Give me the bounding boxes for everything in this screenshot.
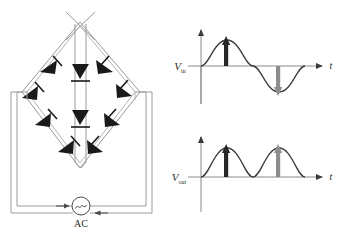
diode-right-upper	[116, 80, 132, 98]
vout-plot: Vout t	[172, 137, 333, 212]
diode-center-top	[71, 64, 90, 81]
ac-source-symbol	[72, 197, 90, 215]
diode-left-lower	[35, 109, 57, 127]
vin-axis-label: Vin	[174, 60, 185, 74]
figure-root: AC Vin t	[0, 0, 342, 230]
figure-canvas: AC Vin t	[0, 0, 342, 230]
vout-axis-label: Vout	[172, 171, 187, 185]
vin-plot: Vin t	[174, 30, 332, 104]
diode-center-bottom	[71, 110, 90, 127]
center-vertical-rails	[75, 24, 86, 168]
diode-top-left-upper	[40, 56, 62, 74]
bridge-rectifier-circuit: AC	[11, 12, 152, 229]
vout-time-label: t	[330, 171, 333, 182]
diode-top-right-upper	[96, 56, 113, 74]
diode-right-lower	[104, 109, 120, 127]
ac-source-label: AC	[74, 218, 88, 229]
diode-bottom-right	[87, 136, 103, 154]
vin-time-label: t	[330, 60, 333, 71]
